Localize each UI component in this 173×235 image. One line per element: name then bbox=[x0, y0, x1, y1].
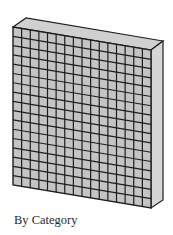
box-side-face bbox=[151, 41, 163, 208]
grid-box-illustration bbox=[0, 0, 173, 235]
category-grid-figure: By Category bbox=[0, 0, 173, 235]
figure-caption: By Category bbox=[14, 213, 78, 228]
